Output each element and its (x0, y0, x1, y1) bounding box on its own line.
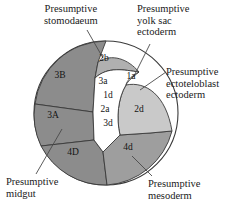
label-presumptive-ectoteloblast-ectoderm: Presumptive ectoteloblast ectoderm (166, 66, 219, 101)
region-label-2a: 2a (101, 104, 111, 114)
figure-root: 3B 3A 4D 4d 2d 2b 1a 3a 1d 2a 3d Presump… (0, 0, 243, 213)
region-label-3B: 3B (54, 70, 65, 80)
region-label-3d: 3d (103, 118, 113, 128)
label-presumptive-stomodaeum: Presumptive stomodaeum (44, 3, 98, 26)
label-presumptive-yolk-sac-ectoderm: Presumptive yolk sac ectoderm (137, 3, 190, 38)
region-label-4D: 4D (67, 147, 79, 157)
region-label-4d: 4d (123, 142, 133, 152)
region-label-2d: 2d (134, 104, 144, 114)
label-presumptive-mesoderm: Presumptive mesoderm (148, 178, 201, 201)
region-label-1a: 1a (127, 71, 137, 81)
region-label-1d: 1d (103, 90, 113, 100)
label-presumptive-midgut: Presumptive midgut (6, 176, 59, 199)
region-label-2b: 2b (99, 53, 109, 63)
region-label-3a: 3a (99, 76, 109, 86)
region-label-3A: 3A (47, 110, 59, 120)
